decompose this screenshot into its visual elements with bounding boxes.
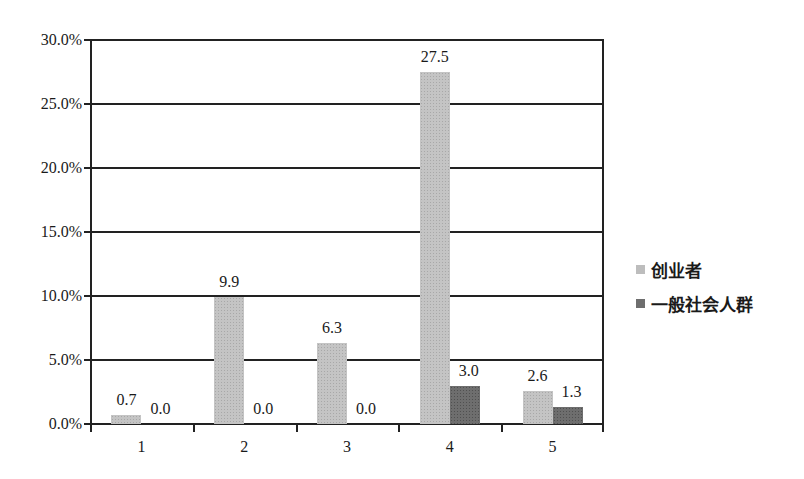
bar-entrepreneurs [111,415,141,424]
chart-plot-area: 0.0%5.0%10.0%15.0%20.0%25.0%30.0%10.70.0… [90,40,604,424]
legend-item-entrepreneurs: 创业者 [636,252,753,286]
y-tick [84,39,90,41]
x-tick [90,424,92,432]
y-tick-label: 20.0% [41,159,82,177]
x-tick [501,424,503,432]
bar-entrepreneurs [214,297,244,424]
y-tick [84,359,90,361]
x-tick-label: 2 [240,438,248,456]
bar-value-label: 27.5 [421,48,449,66]
gridline [90,359,604,361]
y-tick-label: 10.0% [41,287,82,305]
y-tick-label: 15.0% [41,223,82,241]
y-tick-label: 5.0% [49,351,82,369]
bar-value-label: 1.3 [562,383,582,401]
legend-label: 创业者 [651,257,702,282]
bar-general-public [450,386,480,424]
bar-value-label: 9.9 [219,273,239,291]
x-tick-label: 3 [343,438,351,456]
y-tick-label: 25.0% [41,95,82,113]
bar-value-label: 0.7 [116,391,136,409]
y-tick-label: 0.0% [49,415,82,433]
bar-entrepreneurs [420,72,450,424]
x-tick-label: 5 [549,438,557,456]
x-tick [296,424,298,432]
bar-general-public [553,407,583,424]
legend-label: 一般社会人群 [651,291,753,316]
x-tick [398,424,400,432]
y-tick [84,103,90,105]
bar-value-label: 6.3 [322,319,342,337]
legend-swatch-icon [636,299,645,308]
bar-entrepreneurs [317,343,347,424]
legend-item-general-public: 一般社会人群 [636,286,753,320]
legend-swatch-icon [636,265,645,274]
x-tick-label: 1 [137,438,145,456]
gridline [90,103,604,105]
bar-value-label: 0.0 [356,400,376,418]
gridline [90,295,604,297]
y-tick [84,295,90,297]
bar-value-label: 0.0 [253,400,273,418]
gridline [90,231,604,233]
gridline [90,39,604,41]
x-tick [193,424,195,432]
bar-entrepreneurs [523,391,553,424]
y-tick [84,167,90,169]
bar-value-label: 3.0 [459,362,479,380]
bar-value-label: 0.0 [150,400,170,418]
y-tick-label: 30.0% [41,31,82,49]
x-tick-label: 4 [446,438,454,456]
gridline [90,167,604,169]
chart-legend: 创业者 一般社会人群 [636,252,753,320]
x-tick [602,424,604,432]
y-tick [84,231,90,233]
bar-value-label: 2.6 [528,367,548,385]
